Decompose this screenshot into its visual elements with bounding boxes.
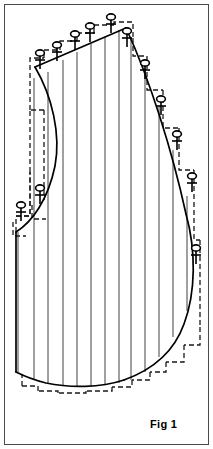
pin-icon[interactable] [85,23,95,42]
pin-icon[interactable] [106,14,116,33]
dashed-step-upper-right-3 [163,90,179,128]
technical-drawing-canvas [0,0,213,449]
dashed-step-bottom-5 [22,386,38,391]
outline-bottom [16,372,124,386]
pin-icon[interactable] [70,31,80,50]
pin-icon[interactable] [140,60,150,79]
dashed-step-upper-right-5 [194,170,200,240]
dashed-step-bottom-2 [86,387,112,391]
figure-container: Fig 1 [0,0,213,449]
pin-icon[interactable] [187,173,197,192]
outline-upper-left-ridge [35,28,126,67]
dashed-step-lower-right-3 [166,345,184,362]
pin-icon[interactable] [52,42,62,61]
pin-icon[interactable] [172,131,182,150]
pin-icon[interactable] [122,28,132,47]
dashed-step-lower-right-4 [150,362,166,372]
figure-caption: Fig 1 [150,418,177,430]
pin-icon[interactable] [16,202,26,221]
dashed-step-lower-right-2 [184,327,200,345]
dashed-step-bottom-3 [58,391,86,393]
dashed-step-bottom-4 [38,391,58,393]
